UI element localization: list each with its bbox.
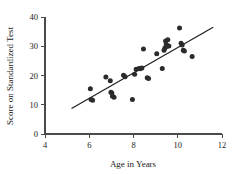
data-point (166, 43, 171, 48)
data-point (190, 54, 195, 59)
data-point (177, 26, 182, 31)
data-point (112, 95, 117, 100)
data-point (88, 86, 93, 91)
data-point (160, 66, 165, 71)
y-tick-label-0: 0 (34, 129, 38, 139)
data-point (108, 78, 113, 83)
scatter-plot-svg: 0102030404681012 Age in Years Score on S… (0, 0, 234, 174)
x-tick-label-4: 4 (43, 140, 48, 150)
data-point (146, 76, 151, 81)
data-point (139, 65, 144, 70)
data-point (141, 46, 146, 51)
data-point (165, 37, 170, 42)
data-points-group (88, 26, 195, 103)
data-point (90, 98, 95, 103)
y-tick-label-10: 10 (30, 100, 39, 110)
y-tick-label-40: 40 (30, 12, 39, 22)
x-axis-title: Age in Years (110, 159, 157, 169)
scatter-plot-figure: 0102030404681012 Age in Years Score on S… (0, 0, 234, 174)
data-point (103, 74, 108, 79)
data-point (154, 51, 159, 56)
ticks-group (41, 17, 222, 138)
x-tick-label-6: 6 (87, 140, 91, 150)
y-axis-title: Score on Standardized Test (5, 27, 15, 125)
data-point (180, 43, 185, 48)
data-point (182, 48, 187, 53)
y-tick-label-20: 20 (30, 71, 39, 81)
x-tick-label-12: 12 (218, 140, 227, 150)
data-point (132, 72, 137, 77)
y-tick-label-30: 30 (30, 41, 39, 51)
x-tick-label-10: 10 (174, 140, 183, 150)
data-point (130, 97, 135, 102)
x-tick-label-8: 8 (131, 140, 135, 150)
tick-labels-group: 0102030404681012 (30, 12, 227, 150)
data-point (123, 74, 128, 79)
